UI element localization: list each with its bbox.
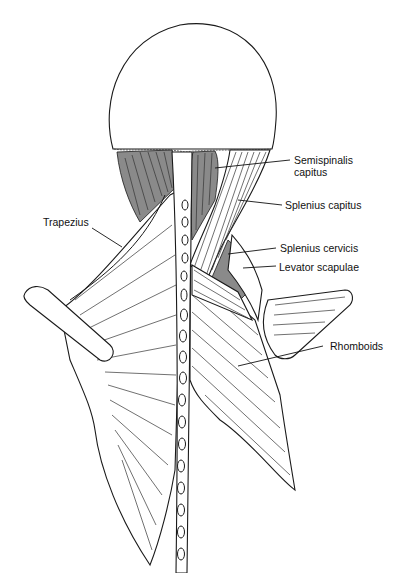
label-semispinalis-capitus: Semispinalis capitus <box>294 154 353 178</box>
label-line: capitus <box>294 166 353 178</box>
muscle-illustration <box>0 0 403 573</box>
label-line: Semispinalis <box>294 154 353 166</box>
anatomy-diagram: Semispinalis capitus Splenius capitus Tr… <box>0 0 403 573</box>
label-splenius-cervicis: Splenius cervicis <box>280 242 358 254</box>
label-levator-scapulae: Levator scapulae <box>279 261 359 273</box>
label-splenius-capitus: Splenius capitus <box>285 199 361 211</box>
head-outline <box>109 24 276 149</box>
label-trapezius: Trapezius <box>43 216 89 228</box>
label-rhomboids: Rhomboids <box>330 340 383 352</box>
leader-trapezius <box>92 228 122 247</box>
